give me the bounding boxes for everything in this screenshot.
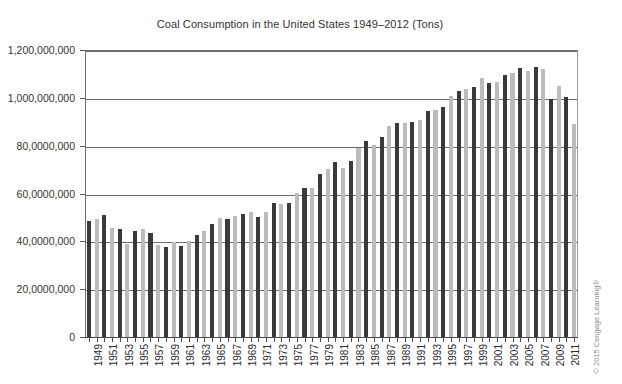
x-axis-tick xyxy=(104,337,105,342)
bar xyxy=(102,215,106,337)
bar xyxy=(503,75,507,337)
x-axis-tick-label: 1999 xyxy=(478,344,489,366)
x-axis-tick xyxy=(351,337,352,342)
bar xyxy=(233,216,237,337)
y-axis-tick-label: 1,200,000,000 xyxy=(8,44,75,56)
x-axis-tick xyxy=(204,337,205,342)
x-axis-tick-label: 1961 xyxy=(185,344,196,366)
x-axis-tick-label: 1991 xyxy=(416,344,427,366)
x-axis-tick xyxy=(513,337,514,342)
bar xyxy=(287,203,291,337)
x-axis-tick xyxy=(305,337,306,342)
x-axis-tick-label: 1951 xyxy=(108,344,119,366)
x-axis-tick xyxy=(428,337,429,342)
y-axis-tick-label: 60,0000,000 xyxy=(17,188,75,200)
y-axis-tick-label: 80,0000,000 xyxy=(17,140,75,152)
x-axis-tick xyxy=(181,337,182,342)
bar xyxy=(133,231,137,337)
x-axis-tick-label: 1989 xyxy=(401,344,412,366)
x-axis-tick xyxy=(528,337,529,342)
x-axis-tick-label: 2005 xyxy=(524,344,535,366)
bar-series xyxy=(85,50,578,337)
x-axis-tick xyxy=(566,337,567,342)
x-axis-tick xyxy=(212,337,213,342)
x-axis-tick xyxy=(543,337,544,342)
x-axis-tick xyxy=(89,337,90,342)
bar xyxy=(302,188,306,337)
x-axis-tick xyxy=(220,337,221,342)
x-axis-tick xyxy=(366,337,367,342)
x-axis-tick xyxy=(297,337,298,342)
x-axis-tick xyxy=(266,337,267,342)
x-axis-tick xyxy=(459,337,460,342)
bar xyxy=(318,174,322,337)
bar xyxy=(534,67,538,337)
x-axis-tick xyxy=(536,337,537,342)
x-axis-tick xyxy=(120,337,121,342)
x-axis-tick-label: 1981 xyxy=(339,344,350,366)
bar xyxy=(195,235,199,337)
bar xyxy=(441,107,445,337)
bar xyxy=(410,122,414,337)
x-axis-tick xyxy=(397,337,398,342)
x-axis-tick-label: 2007 xyxy=(540,344,551,366)
x-axis-tick xyxy=(489,337,490,342)
x-axis-tick-label: 2003 xyxy=(509,344,520,366)
bar xyxy=(572,124,576,337)
bar xyxy=(372,145,376,337)
x-axis-tick-label: 1995 xyxy=(447,344,458,366)
x-axis-tick-label: 1971 xyxy=(262,344,273,366)
x-axis-tick xyxy=(289,337,290,342)
bar xyxy=(564,97,568,337)
x-axis-tick-label: 1953 xyxy=(124,344,135,366)
bar xyxy=(557,86,561,337)
bar xyxy=(218,218,222,337)
x-axis-tick-label: 1997 xyxy=(463,344,474,366)
x-axis-tick xyxy=(328,337,329,342)
bar xyxy=(118,229,122,337)
y-axis-tick-label: 40,0000,000 xyxy=(17,235,75,247)
x-axis-tick xyxy=(389,337,390,342)
bar xyxy=(341,168,345,337)
x-axis-tick-label: 1983 xyxy=(355,344,366,366)
x-axis-tick xyxy=(343,337,344,342)
x-axis-tick xyxy=(559,337,560,342)
bar xyxy=(433,110,437,337)
bar xyxy=(210,224,214,337)
x-axis-tick-label: 1967 xyxy=(232,344,243,366)
y-axis: 020,0000,00040,0000,00060,0000,00080,000… xyxy=(0,0,85,384)
bar xyxy=(541,69,545,337)
x-axis-tick xyxy=(174,337,175,342)
x-axis-tick xyxy=(497,337,498,342)
bar xyxy=(295,193,299,337)
x-axis-tick-label: 1973 xyxy=(278,344,289,366)
x-axis-tick xyxy=(505,337,506,342)
bar xyxy=(480,78,484,337)
x-axis-tick xyxy=(143,337,144,342)
x-axis-tick xyxy=(197,337,198,342)
x-axis-tick-label: 1979 xyxy=(324,344,335,366)
bar xyxy=(326,169,330,337)
x-axis-tick xyxy=(574,337,575,342)
bar xyxy=(549,99,553,337)
x-axis-tick-label: 1985 xyxy=(370,344,381,366)
bar xyxy=(148,233,152,337)
bar xyxy=(526,71,530,337)
bar xyxy=(449,96,453,337)
x-axis-tick xyxy=(435,337,436,342)
bar xyxy=(95,219,99,337)
bar xyxy=(333,162,337,337)
bar xyxy=(172,242,176,337)
x-axis-tick xyxy=(235,337,236,342)
bar xyxy=(264,212,268,337)
x-axis-tick-label: 1949 xyxy=(93,344,104,366)
bar xyxy=(225,219,229,337)
x-axis-tick-label: 2009 xyxy=(555,344,566,366)
x-axis-tick xyxy=(281,337,282,342)
x-axis-tick-label: 1955 xyxy=(139,344,150,366)
bar xyxy=(272,203,276,337)
x-axis-tick-label: 1987 xyxy=(386,344,397,366)
bar xyxy=(110,228,114,337)
x-axis-tick xyxy=(474,337,475,342)
chart-figure: Coal Consumption in the United States 19… xyxy=(0,0,622,384)
